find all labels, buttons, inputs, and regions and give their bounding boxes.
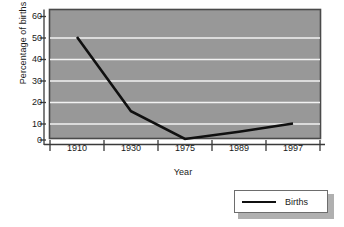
x-tick-label-1997: 1997 [273,144,313,153]
legend[interactable]: Births [234,190,330,215]
x-tick-label-1930: 1930 [111,144,151,153]
legend-label-births: Births [285,197,308,207]
y-axis-title: Percentage of births [18,0,28,108]
y-tick-label-10: 10 [20,120,42,129]
x-axis-title: Year [45,167,321,177]
x-tick-label-1975: 1975 [165,144,205,153]
line-chart: 60 50 40 30 20 10 0 Percentage of births… [0,0,344,227]
legend-line-swatch [242,201,276,203]
x-tick-label-1989: 1989 [219,144,259,153]
x-tick-label-1910: 1910 [57,144,97,153]
x-tick-labels: 1910 1930 1975 1989 1997 [0,144,344,160]
legend-entry-births[interactable]: Births [234,190,328,213]
plot-background [50,10,321,139]
